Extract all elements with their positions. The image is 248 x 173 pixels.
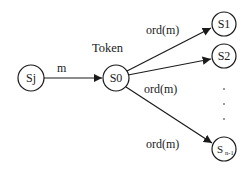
node-label-s2: S2 — [218, 49, 231, 63]
edge-label-ord-sn1: ord(m) — [146, 137, 179, 151]
ellipsis-dots — [223, 88, 225, 120]
edge-label-ord-s2: ord(m) — [144, 82, 177, 96]
diagram-canvas: m ord(m) ord(m) ord(m) Token Sj S0 S1 S2… — [0, 0, 248, 173]
node-s0: S0 — [103, 65, 129, 91]
edge-label-ord-s1: ord(m) — [146, 23, 179, 37]
node-s2: S2 — [212, 44, 236, 68]
node-label-sj: Sj — [26, 71, 36, 85]
edge-s0-s2 — [128, 59, 211, 75]
edge-label-m: m — [57, 61, 67, 75]
node-sj: Sj — [18, 65, 44, 91]
node-label-s1: S1 — [218, 17, 231, 31]
node-label-sn1-subscript: n-1 — [225, 149, 234, 156]
node-s1: S1 — [212, 12, 236, 36]
token-label: Token — [92, 41, 124, 55]
node-label-sn1: S — [217, 143, 223, 155]
node-label-s0: S0 — [110, 71, 123, 85]
node-sn1: S n-1 — [212, 137, 236, 161]
